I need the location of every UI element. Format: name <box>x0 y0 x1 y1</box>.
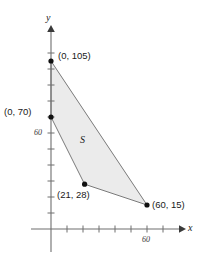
vertex-dot-60-15 <box>144 202 149 207</box>
y-axis-arrow-icon <box>47 25 55 32</box>
y-axis-label: y <box>46 13 50 23</box>
x-axis-label: x <box>188 223 192 233</box>
point-label-60-15: (60, 15) <box>152 200 185 210</box>
point-label-21-28: (21, 28) <box>57 190 90 200</box>
vertex-dot-0-105 <box>48 58 53 63</box>
plot-canvas <box>0 0 200 261</box>
x-axis-arrow-icon <box>179 225 186 233</box>
shaded-region-s <box>51 61 147 205</box>
point-label-0-70: (0, 70) <box>4 107 31 117</box>
x-tick-label-60: 60 <box>142 236 150 244</box>
region-label-s: S <box>80 135 85 145</box>
point-label-0-105: (0, 105) <box>58 51 91 61</box>
vertex-dot-21-28 <box>82 182 87 187</box>
y-tick-label-60: 60 <box>34 129 42 137</box>
coordinate-plane-figure: (0, 105) (0, 70) (21, 28) (60, 15) S 60 … <box>0 0 200 261</box>
vertex-dot-0-70 <box>48 114 53 119</box>
